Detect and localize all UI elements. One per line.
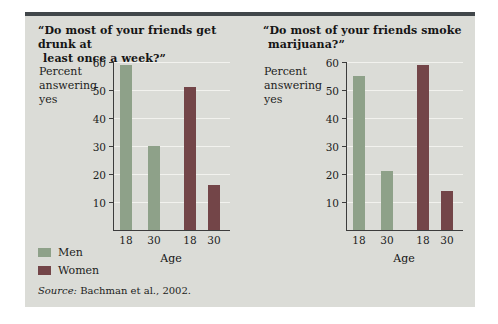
plot-area (113, 62, 230, 231)
y-axis-ticks: 102030405060 (83, 62, 113, 230)
x-axis-label: Age (113, 252, 229, 265)
y-tick-label-20: 20 (93, 169, 106, 181)
chart-title-line1: “Do most of your friends smoke (263, 24, 478, 38)
women-color-swatch (38, 266, 51, 275)
bar-men-age-30 (148, 146, 160, 230)
men-color-swatch (38, 248, 51, 257)
legend-label-men: Men (58, 246, 83, 259)
chart-friends-smoke-marijuana: “Do most of your friends smoke marijuana… (263, 24, 478, 284)
chart-friends-get-drunk: “Do most of your friends get drunk at le… (38, 24, 253, 284)
x-axis-ticks: 18301830 (346, 234, 464, 248)
source-prefix: Source: (38, 285, 77, 296)
source-note: Source: Bachman et al., 2002. (38, 285, 191, 296)
plot-wrap: 102030405060 18301830 Age (346, 62, 464, 265)
y-tick-label-40: 40 (326, 113, 339, 125)
y-tick-label-50: 50 (93, 85, 106, 97)
legend-label-women: Women (58, 264, 99, 277)
x-tick-label-women-30: 30 (440, 234, 453, 246)
bar-men-age-18 (353, 76, 365, 230)
textbook-figure: “Do most of your friends get drunk at le… (0, 0, 498, 324)
y-tick-label-60: 60 (326, 57, 339, 69)
x-tick-label-women-18: 18 (416, 234, 429, 246)
gridline-60 (347, 62, 463, 64)
plot-area (346, 62, 463, 231)
x-tick-label-men-30: 30 (380, 234, 393, 246)
y-tick-label-10: 10 (93, 197, 106, 209)
x-tick-label-men-30: 30 (147, 234, 160, 246)
y-tick-label-40: 40 (93, 113, 106, 125)
y-tick-label-20: 20 (326, 169, 339, 181)
chart-title: “Do most of your friends get drunk at le… (38, 24, 253, 62)
figure-panel: “Do most of your friends get drunk at le… (25, 16, 475, 307)
chart-title: “Do most of your friends smoke marijuana… (263, 24, 478, 62)
x-tick-label-men-18: 18 (352, 234, 365, 246)
y-tick-label-60: 60 (93, 57, 106, 69)
bar-women-age-30 (208, 185, 220, 230)
y-tick-label-50: 50 (326, 85, 339, 97)
y-tick-label-30: 30 (326, 141, 339, 153)
source-text: Bachman et al., 2002. (77, 285, 191, 296)
bar-women-age-18 (184, 87, 196, 230)
chart-title-line2: marijuana?” (263, 38, 478, 52)
bar-women-age-30 (441, 191, 453, 230)
y-axis-ticks: 102030405060 (316, 62, 346, 230)
chart-title-line1: “Do most of your friends get drunk at (38, 24, 253, 52)
bar-women-age-18 (417, 65, 429, 230)
legend: Men Women (38, 246, 99, 282)
y-tick-label-30: 30 (93, 141, 106, 153)
gridline-60 (114, 62, 230, 64)
legend-item-women: Women (38, 264, 99, 277)
x-axis-label: Age (346, 252, 462, 265)
plot-wrap: 102030405060 18301830 Age (113, 62, 231, 265)
chart-body: Percent answering yes 102030405060 18301… (263, 62, 478, 284)
x-tick-label-women-30: 30 (207, 234, 220, 246)
bar-men-age-30 (381, 171, 393, 230)
x-tick-label-men-18: 18 (119, 234, 132, 246)
legend-item-men: Men (38, 246, 99, 259)
bar-men-age-18 (120, 65, 132, 230)
x-axis-ticks: 18301830 (113, 234, 231, 248)
x-tick-label-women-18: 18 (183, 234, 196, 246)
y-tick-label-10: 10 (326, 197, 339, 209)
